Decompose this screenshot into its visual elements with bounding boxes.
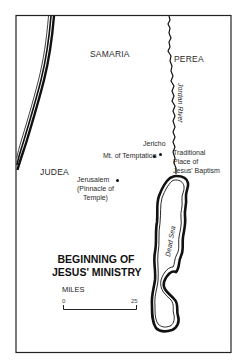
jerusalem-marker-icon [116, 179, 119, 182]
jerusalem-line-2: (Pinnacle of [77, 185, 114, 194]
map-figure: SAMARIA PEREA JUDEA Jordan River Dead Se… [0, 0, 248, 363]
map-title-line-2: JESUS' MINISTRY [52, 266, 140, 279]
scale-unit-label: MILES [62, 286, 85, 294]
place-label-jerusalem: Jerusalem (Pinnacle of Temple) [77, 176, 114, 202]
baptism-line-3: Jesus' Baptism [173, 167, 220, 176]
region-label-perea: PEREA [174, 55, 204, 64]
jerusalem-line-3: Temple) [77, 194, 114, 203]
region-label-samaria: SAMARIA [90, 50, 130, 59]
jordan-river-label: Jordan River [177, 83, 184, 123]
map-title-line-1: BEGINNING OF [52, 253, 140, 266]
scale-bar [64, 305, 137, 310]
baptism-line-1: Traditional [173, 149, 220, 158]
coastline [17, 16, 54, 170]
scale-start-label: 0 [62, 298, 65, 304]
place-label-baptism: Traditional Place of Jesus' Baptism [173, 149, 220, 175]
jericho-marker-icon [159, 153, 162, 156]
baptism-line-2: Place of [173, 158, 220, 167]
mt-temptation-marker-icon [153, 155, 156, 158]
place-label-mt-temptation: Mt. of Temptation [103, 152, 157, 161]
jerusalem-line-1: Jerusalem [77, 176, 114, 185]
map-title: BEGINNING OF JESUS' MINISTRY [52, 253, 140, 279]
region-label-judea: JUDEA [40, 168, 69, 177]
place-label-jericho: Jericho [143, 140, 166, 149]
scale-end-label: 25 [131, 298, 138, 304]
